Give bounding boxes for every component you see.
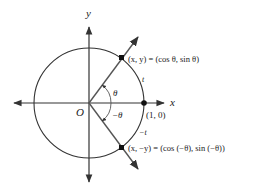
point-unit — [141, 100, 147, 106]
unit-circle-diagram: y x O (x, y) = (cos θ, sin θ) (x, −y) = … — [0, 0, 263, 190]
arc-neg-t-label: −t — [139, 128, 147, 137]
point-lower — [119, 145, 124, 150]
x-axis-label: x — [169, 96, 175, 108]
unit-point-label: (1, 0) — [146, 110, 166, 120]
lower-point-label: (x, −y) = (cos (−θ), sin (−θ)) — [128, 143, 225, 153]
theta-label: θ — [113, 88, 118, 98]
angle-arc-theta — [102, 85, 111, 103]
arc-t-label: t — [142, 75, 145, 84]
upper-point-label: (x, y) = (cos θ, sin θ) — [128, 54, 199, 64]
neg-theta-label: −θ — [112, 110, 123, 120]
origin-label: O — [76, 106, 84, 118]
angle-arc-neg-theta — [102, 103, 111, 121]
y-axis-label: y — [85, 7, 91, 19]
point-upper — [119, 55, 124, 60]
